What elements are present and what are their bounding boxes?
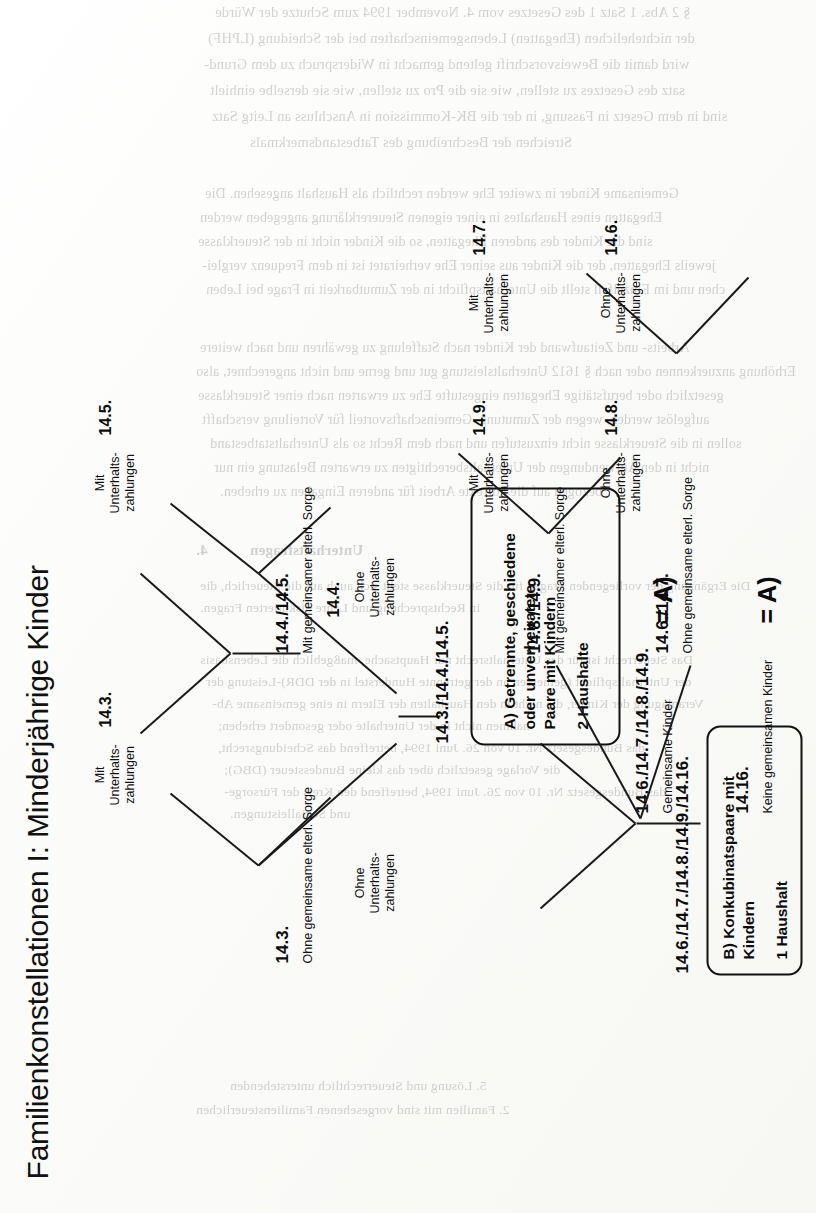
node-a-household-count: 2 Haushalte [573, 503, 591, 729]
subbranch-b-ohne-sorge-label: Ohne gemeinsame elterl. Sorge [680, 477, 695, 653]
leaf-a3-line-3: zahlungen [122, 454, 136, 512]
leaf-a1-ref: 14.3. [96, 691, 114, 727]
node-b-box[interactable]: B) Konkubinatspaare mit Kindern 1 Hausha… [706, 725, 802, 975]
leaf-a2-label: Ohne Unterhalts- zahlungen [352, 852, 397, 913]
subbranch-b-ohne-sorge-equals: = A) [648, 576, 677, 623]
leaf-b1-line-2: Unterhalts- [481, 452, 495, 513]
node-a-ref: 14.3./14.4./14.5. [432, 620, 452, 743]
branch-b-gemeinsame-kinder-ref: 14.6./14.7./14.8./14.9. [632, 648, 652, 813]
leaf-a1-line-1: Mit [92, 766, 106, 783]
leaf-b4-line-3: zahlungen [628, 274, 642, 332]
leaf-a2-line-1: Ohne [352, 867, 366, 898]
leaf-a4-ref: 14.4. [324, 581, 342, 617]
leaf-a3-line-1: Mit [92, 474, 106, 491]
leaf-a4-line-1: Ohne [352, 571, 366, 602]
leaf-a1-line-3: zahlungen [122, 746, 136, 804]
leaf-a3-ref: 14.5. [96, 399, 114, 435]
leaf-a3-line-2: Unterhalts- [107, 452, 121, 513]
family-constellation-diagram: Familienkonstellationen I: Minderjährige… [0, 0, 816, 1213]
leaf-b3-line-2: Unterhalts- [481, 272, 495, 333]
leaf-b4-label: Ohne Unterhalts- zahlungen [598, 272, 643, 333]
branch-b-keine-kinder-label: Keine gemeinsamen Kinder [760, 659, 775, 813]
leaf-b2-line-2: Unterhalts- [613, 452, 627, 513]
leaf-b3-line-3: zahlungen [496, 274, 510, 332]
leaf-b2-line-3: zahlungen [628, 454, 642, 512]
leaf-b4-ref: 14.6. [602, 219, 620, 255]
leaf-a2-line-3: zahlungen [382, 854, 396, 912]
leaf-a3-label: Mit Unterhalts- zahlungen [92, 452, 137, 513]
scanned-page: § 2 Abs. 1 Satz 1 des Gesetzes vom 4. No… [0, 0, 816, 1213]
subbranch-b-mit-sorge-ref: 14.8./14.9. [524, 573, 544, 653]
leaf-a1-label: Mit Unterhalts- zahlungen [92, 744, 137, 805]
leaf-b1-label: Mit Unterhalts- zahlungen [466, 452, 511, 513]
leaf-b2-line-1: Ohne [598, 467, 612, 498]
branch-a-ohne-sorge-ref: 14.3. [272, 925, 292, 963]
leaf-b4-line-2: Unterhalts- [613, 272, 627, 333]
leaf-b3-line-1: Mit [466, 294, 480, 311]
leaf-b2-label: Ohne Unterhalts- zahlungen [598, 452, 643, 513]
leaf-b2-ref: 14.8. [602, 399, 620, 435]
leaf-b4-line-1: Ohne [598, 287, 612, 318]
branch-a-ohne-sorge-label: Ohne gemeinsame elterl. Sorge [300, 787, 315, 963]
leaf-a4-line-2: Unterhalts- [367, 556, 381, 617]
branch-a-mit-sorge-label: Mit gemeinsamer elterl. Sorge [300, 486, 315, 653]
leaf-b1-ref: 14.9. [470, 399, 488, 435]
branch-b-gemeinsame-kinder-label: Gemeinsame Kinder [660, 699, 675, 813]
leaf-b1-line-3: zahlungen [496, 454, 510, 512]
diagram-title: Familienkonstellationen I: Minderjährige… [20, 565, 54, 1179]
leaf-a4-label: Ohne Unterhalts- zahlungen [352, 556, 397, 617]
leaf-b1-line-1: Mit [466, 474, 480, 491]
leaf-a4-line-3: zahlungen [382, 558, 396, 616]
branch-b-keine-kinder-ref: 14.16. [732, 766, 752, 813]
node-a-box[interactable]: A) Getrennte, geschiedene oder unverheir… [470, 487, 620, 745]
node-a-title-line-1: A) Getrennte, geschiedene [499, 503, 519, 729]
subbranch-b-mit-sorge-label: Mit gemeinsamer elterl. Sorge [552, 486, 567, 653]
branch-a-mit-sorge-ref: 14.4./14.5. [272, 573, 292, 653]
branch-b-keine-kinder-equals: = A) [752, 576, 781, 623]
leaf-b3-label: Mit Unterhalts- zahlungen [466, 272, 511, 333]
leaf-a2-line-2: Unterhalts- [367, 852, 381, 913]
leaf-a1-line-2: Unterhalts- [107, 744, 121, 805]
leaf-b3-ref: 14.7. [470, 219, 488, 255]
